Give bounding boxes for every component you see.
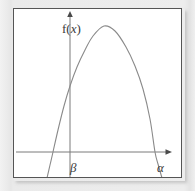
x-axis-arrowhead: [166, 149, 173, 154]
left-root-label-beta: β: [70, 161, 76, 174]
y-axis-label-close-paren: ): [76, 21, 80, 36]
figure-screenshot: f(x) x β α: [0, 0, 195, 191]
y-axis-label: f(x): [62, 22, 81, 35]
right-root-label-alpha: α: [157, 161, 164, 174]
parabola-curve: [47, 26, 162, 177]
plot-frame: f(x) x β α: [13, 8, 182, 178]
y-axis-arrowhead: [67, 11, 73, 17]
graph-canvas: [14, 9, 181, 177]
